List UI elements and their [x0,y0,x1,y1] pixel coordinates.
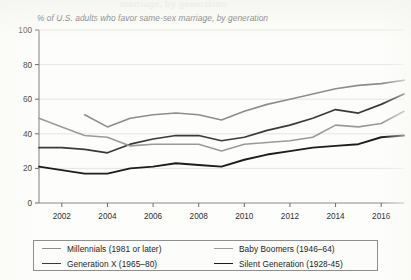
legend-entry[interactable]: Silent Generation (1928-45) [206,256,379,271]
legend-entry[interactable]: Generation X (1965–80) [34,256,206,271]
legend-swatch-line-icon [42,263,61,264]
ytick-label-0: 0 [27,199,32,208]
xtick-label-2012: 2012 [281,212,300,221]
xtick-label-2002: 2002 [53,212,72,221]
legend-swatch-line-icon [214,248,233,249]
ytick-label-40: 40 [23,130,33,139]
xtick-label-2008: 2008 [190,212,209,221]
chart-legend: Millennials (1981 or later)Baby Boomers … [33,240,378,271]
legend-label: Generation X (1965–80) [67,259,157,269]
ytick-label-60: 60 [23,95,33,104]
chart-page: marriage, by generation % of U.S. adults… [0,0,411,280]
legend-swatch-line-icon [42,248,61,249]
plot-area: 0204060801002002200420062008201020122014… [0,0,411,235]
xtick-label-2014: 2014 [326,212,345,221]
ytick-label-100: 100 [18,26,32,35]
xtick-label-2010: 2010 [235,212,254,221]
legend-label: Baby Boomers (1946–64) [239,244,335,254]
legend-label: Silent Generation (1928-45) [239,259,343,269]
legend-entry[interactable]: Millennials (1981 or later) [34,241,206,256]
line-chart-svg: 0204060801002002200420062008201020122014… [0,0,411,235]
xtick-label-2006: 2006 [144,212,163,221]
series-line-0 [85,80,404,127]
xtick-label-2004: 2004 [98,212,117,221]
legend-label: Millennials (1981 or later) [67,244,162,254]
ytick-label-20: 20 [23,164,33,173]
legend-entry[interactable]: Baby Boomers (1946–64) [206,241,379,256]
ytick-label-80: 80 [23,61,33,70]
xtick-label-2016: 2016 [372,212,391,221]
legend-swatch-line-icon [214,263,233,264]
